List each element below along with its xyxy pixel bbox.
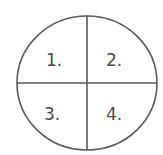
quadrant-label-1: 1.	[46, 50, 62, 70]
quadrant-label-2: 2.	[106, 50, 122, 70]
quadrant-label-3: 3.	[44, 104, 60, 124]
quadrant-label-4: 4.	[106, 104, 122, 124]
quadrant-circle-diagram: 1. 2. 3. 4.	[0, 0, 163, 155]
